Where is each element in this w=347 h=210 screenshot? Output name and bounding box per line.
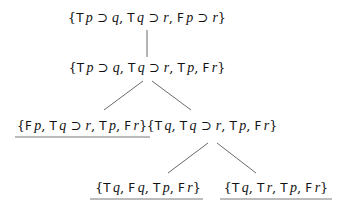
formula-token: , bbox=[297, 180, 305, 195]
formula-token: p bbox=[239, 118, 246, 133]
formula-token: ⊃ bbox=[197, 118, 216, 133]
formula-token: T bbox=[280, 181, 290, 195]
formula-token: q bbox=[138, 180, 145, 195]
formula-token: q bbox=[59, 118, 66, 133]
edge-n2-n4 bbox=[152, 81, 191, 110]
formula-token: , bbox=[170, 180, 178, 195]
formula-token: F bbox=[177, 11, 186, 25]
formula-token: ⊃ bbox=[93, 10, 112, 25]
formula-token: , bbox=[41, 118, 49, 133]
formula-token: } bbox=[218, 10, 226, 25]
edge-n4-n6 bbox=[217, 143, 256, 173]
formula-token: q bbox=[113, 180, 120, 195]
formula-token: F bbox=[128, 181, 137, 195]
formula-token: ⊃ bbox=[145, 60, 164, 75]
formula-token: } bbox=[217, 60, 225, 75]
edge-n4-n5 bbox=[168, 143, 208, 173]
tableau-node-5: {T q, F q, T p, F r} bbox=[95, 180, 201, 196]
formula-token: p bbox=[86, 60, 93, 75]
formula-token: F bbox=[124, 119, 133, 133]
formula-token: ⊃ bbox=[193, 10, 212, 25]
formula-token: T bbox=[127, 11, 137, 25]
formula-token: , bbox=[272, 180, 280, 195]
formula-token: , bbox=[145, 180, 153, 195]
formula-token: F bbox=[25, 119, 34, 133]
formula-token: F bbox=[178, 181, 187, 195]
formula-token: } bbox=[269, 118, 277, 133]
formula-token: , bbox=[221, 118, 229, 133]
formula-token: p bbox=[34, 118, 41, 133]
formula-token: T bbox=[229, 119, 239, 133]
formula-token: T bbox=[77, 61, 87, 75]
formula-token: T bbox=[99, 119, 109, 133]
formula-token: , bbox=[169, 10, 177, 25]
tableau-node-root: {T p ⊃ q, T q ⊃ r, F p ⊃ r} bbox=[68, 10, 226, 26]
formula-token: F bbox=[305, 181, 314, 195]
tableau-node-2: {T p ⊃ q, T q ⊃ r, T p, F r} bbox=[68, 60, 225, 76]
formula-token: , bbox=[246, 118, 254, 133]
formula-token: p bbox=[187, 60, 194, 75]
formula-token: T bbox=[76, 11, 86, 25]
formula-token: T bbox=[153, 181, 163, 195]
formula-token: T bbox=[155, 119, 165, 133]
formula-token: T bbox=[128, 61, 138, 75]
formula-token: } bbox=[193, 180, 201, 195]
tableau-node-4: {T q, T q ⊃ r, T p, F r} bbox=[147, 118, 278, 134]
formula-token: T bbox=[50, 119, 60, 133]
formula-token: ⊃ bbox=[66, 118, 85, 133]
edge-n2-n3 bbox=[104, 81, 143, 110]
formula-token: T bbox=[103, 181, 113, 195]
formula-token: F bbox=[203, 61, 212, 75]
tableau-node-6: {T q, T r, T p, F r} bbox=[224, 180, 329, 196]
formula-token: T bbox=[178, 61, 188, 75]
formula-token: ⊃ bbox=[93, 60, 112, 75]
formula-token: T bbox=[257, 181, 267, 195]
tableau-node-3: {F p, T q ⊃ r, T p, F r} bbox=[17, 118, 148, 134]
formula-token: T bbox=[180, 119, 190, 133]
formula-token: p bbox=[86, 10, 93, 25]
tableau-edges bbox=[0, 0, 347, 210]
formula-token: q bbox=[190, 118, 197, 133]
formula-token: ⊃ bbox=[144, 10, 163, 25]
formula-token: } bbox=[320, 180, 328, 195]
formula-token: q bbox=[242, 180, 249, 195]
formula-token: , bbox=[194, 60, 202, 75]
formula-token: , bbox=[169, 60, 177, 75]
formula-token: T bbox=[232, 181, 242, 195]
formula-token: F bbox=[254, 119, 263, 133]
formula-token: p bbox=[163, 180, 170, 195]
formula-token: q bbox=[165, 118, 172, 133]
